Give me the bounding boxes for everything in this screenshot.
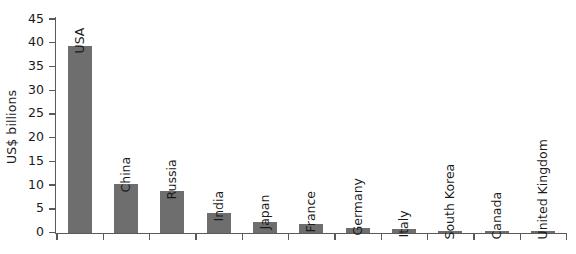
y-tick-20 [49,137,55,138]
x-tick-1 [103,233,104,240]
x-tick-11 [566,233,567,240]
bar-label-canada: Canada [490,192,503,240]
x-tick-2 [149,233,150,240]
bar-label-india: India [212,190,225,221]
y-tick-25 [49,113,55,114]
bar-label-japan: Japan [258,195,271,230]
bar-label-united-kingdom: United Kingdom [536,139,549,239]
x-tick-3 [195,233,196,240]
y-tick-0 [49,232,55,233]
y-tick-label-25: 25 [14,107,44,120]
y-tick-label-20: 20 [14,131,44,144]
y-tick-15 [49,161,55,162]
y-tick-label-0: 0 [14,226,44,239]
y-tick-label-5: 5 [14,202,44,215]
y-tick-10 [49,184,55,185]
y-tick-45 [49,18,55,19]
y-tick-label-35: 35 [14,60,44,73]
bar-chart: US$ billions 051015202530354045 USAChina… [0,0,576,254]
y-tick-5 [49,208,55,209]
y-tick-label-45: 45 [14,13,44,26]
x-tick-5 [288,233,289,240]
bar-label-south-korea: South Korea [444,164,457,240]
x-tick-0 [56,233,57,240]
bar-label-china: China [119,156,132,192]
x-tick-9 [473,233,474,240]
bar-label-france: France [305,191,318,233]
y-axis-line [55,17,56,234]
x-tick-4 [242,233,243,240]
x-tick-8 [427,233,428,240]
y-tick-30 [49,90,55,91]
bar-label-germany: Germany [351,178,364,235]
y-tick-label-15: 15 [14,155,44,168]
bar-label-russia: Russia [166,159,179,199]
x-tick-10 [520,233,521,240]
y-tick-label-10: 10 [14,179,44,192]
x-tick-7 [381,233,382,240]
y-tick-label-40: 40 [14,36,44,49]
y-tick-label-30: 30 [14,84,44,97]
y-tick-40 [49,42,55,43]
bar-label-italy: Italy [397,210,410,237]
bar-label-usa: USA [73,28,86,54]
plot-area: 051015202530354045 USAChinaRussiaIndiaJa… [0,0,576,254]
y-tick-35 [49,66,55,67]
bar-usa [68,46,92,233]
x-tick-6 [334,233,335,240]
